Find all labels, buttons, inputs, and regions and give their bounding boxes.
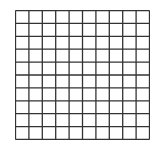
grid-diagram bbox=[15, 10, 150, 140]
